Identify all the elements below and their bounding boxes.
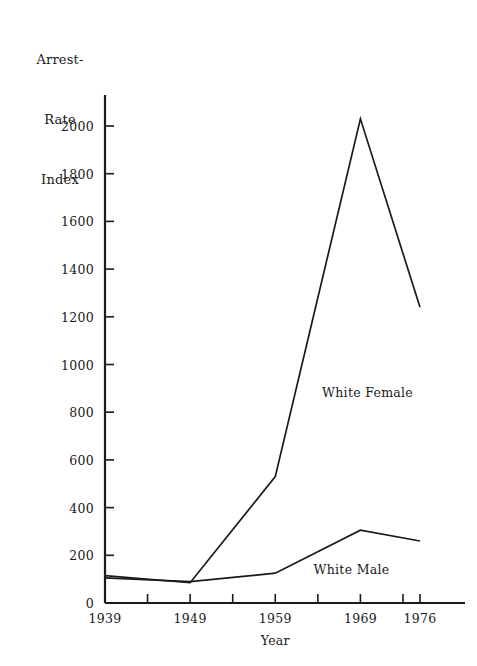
y-axis-tick-label: 2000 [30, 119, 94, 134]
x-axis-tick-label: 1939 [88, 611, 121, 626]
x-axis-tick-label: 1969 [344, 611, 377, 626]
series-label-white-female: White Female [322, 385, 413, 400]
x-axis-title: Year [261, 633, 290, 648]
plot-area [0, 0, 477, 666]
y-axis-tick-label: 600 [30, 452, 94, 467]
y-axis-tick-label: 800 [30, 405, 94, 420]
y-axis-tick-label: 1400 [30, 262, 94, 277]
y-axis-tick-label: 1800 [30, 166, 94, 181]
x-axis-tick-label: 1976 [403, 611, 436, 626]
x-axis-tick-label: 1949 [174, 611, 207, 626]
x-axis-tick-label: 1959 [259, 611, 292, 626]
y-axis-tick-label: 0 [30, 596, 94, 611]
y-axis-tick-label: 1200 [30, 309, 94, 324]
y-axis-tick-label: 1600 [30, 214, 94, 229]
y-axis-tick-label: 1000 [30, 357, 94, 372]
arrest-rate-index-line-chart: Arrest- Rate Index 020040060080010001200… [0, 0, 477, 666]
series-label-white-male: White Male [314, 562, 390, 577]
y-axis-tick-label: 200 [30, 548, 94, 563]
series-line-white-female [105, 119, 420, 583]
y-axis-tick-label: 400 [30, 500, 94, 515]
